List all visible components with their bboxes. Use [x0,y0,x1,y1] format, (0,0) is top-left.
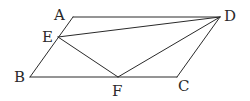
label-A: A [53,6,65,24]
segment-EF [58,37,118,77]
geometry-diagram: A E B F C D [0,0,250,101]
label-E: E [42,28,53,46]
segment-DC [177,17,220,77]
segment-ED [58,17,220,37]
label-F: F [112,82,122,100]
label-D: D [224,7,236,25]
segment-FD [118,17,220,77]
label-B: B [14,68,25,86]
label-C: C [178,77,189,95]
segment-BA [30,17,73,77]
segments [30,17,220,77]
